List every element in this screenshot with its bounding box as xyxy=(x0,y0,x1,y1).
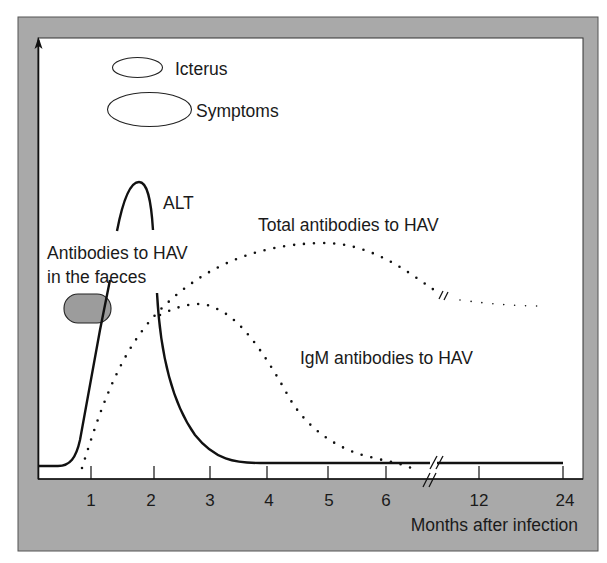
x-tick-label-1: 1 xyxy=(86,491,95,510)
faeces-label-line2: in the faeces xyxy=(47,267,146,287)
faeces-label-line1: Antibodies to HAV xyxy=(47,243,188,263)
x-tick-label-6: 6 xyxy=(381,491,390,510)
x-tick-label-3: 3 xyxy=(205,491,214,510)
total-antibodies-label: Total antibodies to HAV xyxy=(258,215,439,235)
icterus-label: Icterus xyxy=(175,59,228,79)
hav-infection-timeline-figure: 1 2 3 4 5 6 12 24 Months after infection… xyxy=(0,0,607,563)
igm-antibodies-label: IgM antibodies to HAV xyxy=(300,348,473,368)
x-tick-label-5: 5 xyxy=(324,491,333,510)
x-tick-label-24: 24 xyxy=(556,491,575,510)
alt-label: ALT xyxy=(163,193,194,213)
x-tick-label-2: 2 xyxy=(146,491,155,510)
symptoms-label: Symptoms xyxy=(196,101,279,121)
x-tick-label-12: 12 xyxy=(470,491,489,510)
x-tick-label-4: 4 xyxy=(264,491,273,510)
x-axis-title: Months after infection xyxy=(411,515,578,535)
